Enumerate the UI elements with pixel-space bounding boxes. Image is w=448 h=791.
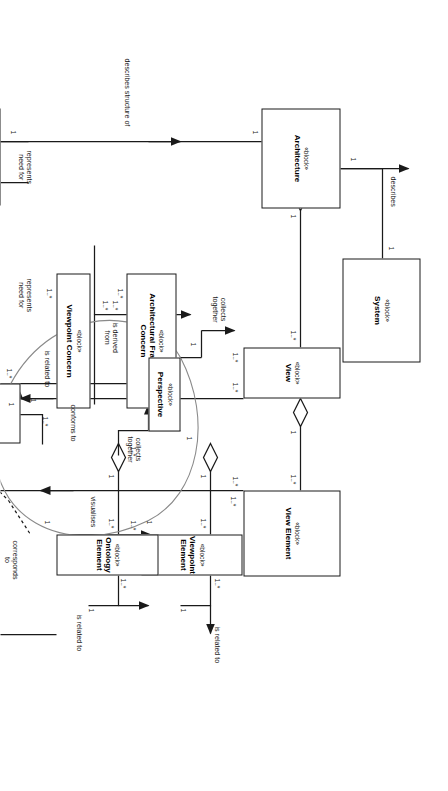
mult-vp-vpelem-src: 1 bbox=[199, 474, 206, 478]
mult-vpc-derived: 1..* bbox=[101, 300, 108, 310]
mult-vp-collects: 1..* bbox=[129, 446, 136, 456]
mult-ontelem-self-a: 1..* bbox=[119, 578, 126, 588]
mult-vp-vpelem-tgt: 1..* bbox=[199, 518, 206, 528]
multiplicity-layer: 1 1 1 1..* 1 1..* 1 1 1..* 1..* 1..* 1..… bbox=[0, 0, 448, 791]
mult-vpelem-visualises: 1..* bbox=[229, 496, 236, 506]
mult-persp-collects-view: 1 bbox=[189, 342, 196, 346]
mult-arch-view-src: 1 bbox=[289, 214, 296, 218]
mult-vp-self-a: 1..* bbox=[41, 416, 48, 426]
mult-arch-describes: 1 bbox=[349, 157, 356, 161]
mult-view-velem-tgt: 1..* bbox=[289, 474, 296, 484]
mult-afc-represents: 1..* bbox=[116, 288, 123, 298]
mult-af-viewpoint-tgt: 1..* bbox=[5, 368, 12, 378]
mult-velem-visualises: 1..* bbox=[231, 476, 238, 486]
mult-persp-collects-vp: 1 bbox=[185, 436, 192, 440]
mult-view-velem-src: 1 bbox=[289, 430, 296, 434]
mult-af-struct: 1 bbox=[9, 130, 16, 134]
mult-ontelem-self-b: 1 bbox=[87, 608, 94, 612]
diagram-rotated-layer: «block» System «block» Architecture «blo… bbox=[0, 0, 448, 791]
mult-afc-derived: 1..* bbox=[111, 300, 118, 310]
mult-vpelem-self-b: 1 bbox=[179, 608, 186, 612]
mult-system-describes: 1 bbox=[387, 246, 394, 250]
diagram-canvas: «block» System «block» Architecture «blo… bbox=[0, 0, 448, 791]
mult-arch-struct: 1 bbox=[251, 130, 258, 134]
mult-ont-ontelem-tgt: 1..* bbox=[107, 518, 114, 528]
mult-ontelem-via: 1 bbox=[43, 520, 50, 524]
mult-ont-ontelem-src: 1 bbox=[107, 474, 114, 478]
mult-view-collects: 1..* bbox=[231, 352, 238, 362]
mult-arch-view-tgt: 1..* bbox=[289, 330, 296, 340]
mult-ontelem-corresponds: 1 bbox=[145, 520, 152, 524]
mult-vpelem-corresponds: 1..* bbox=[129, 520, 136, 530]
mult-vpc-represents: 1..* bbox=[45, 288, 52, 298]
mult-vp-conforms: 1 bbox=[7, 402, 14, 406]
mult-view-conforms: 1..* bbox=[231, 382, 238, 392]
mult-vpelem-self-a: 1..* bbox=[213, 578, 220, 588]
mult-vp-self-b: 1 bbox=[29, 398, 36, 402]
